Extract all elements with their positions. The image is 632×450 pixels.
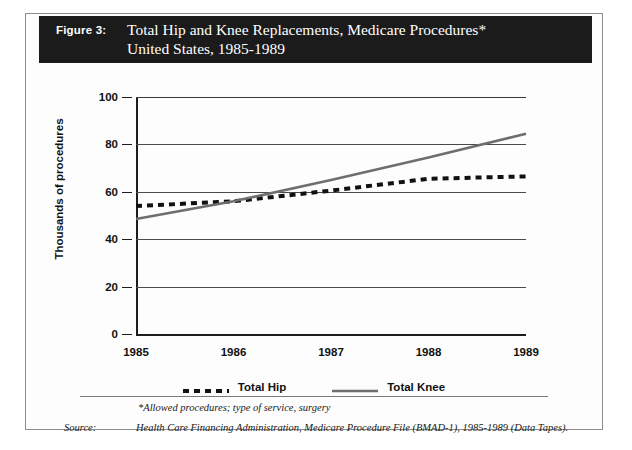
x-tick-label-1988: 1988 [416,346,442,358]
y-tick-60 [122,192,132,193]
x-tick-label-1986: 1986 [221,346,247,358]
source-label: Source: [64,422,136,433]
y-tick-label-60: 60 [105,186,118,198]
legend-item-total-knee[interactable]: Total Knee [332,381,445,393]
series-lines [136,97,526,334]
figure-title-line-2: United States, 1985-1989 [127,39,486,58]
figure-container: Figure 3: Total Hip and Knee Replacement… [25,13,603,430]
y-tick-label-80: 80 [105,138,118,150]
legend-label: Total Hip [238,381,286,393]
y-axis-title: Thousands of procedures [53,94,65,284]
legend-label: Total Knee [387,381,445,393]
y-tick-100 [122,97,132,98]
source-row: Source:Health Care Financing Administrat… [64,422,604,433]
legend-swatch-dashed [183,382,229,392]
y-tick-20 [122,287,132,288]
legend-swatch-solid [332,382,378,392]
x-tick-label-1989: 1989 [513,346,539,358]
chart-legend: Total HipTotal Knee [26,381,602,393]
plot-area: Thousands of procedures 020406080100 198… [26,63,602,429]
y-tick-0 [122,334,132,335]
figure-number-label: Figure 3: [56,24,106,36]
y-tick-label-100: 100 [99,91,118,103]
y-tick-label-0: 0 [112,328,118,340]
figure-title-bar: Figure 3: Total Hip and Knee Replacement… [39,16,592,63]
y-tick-label-20: 20 [105,281,118,293]
y-tick-40 [122,239,132,240]
footnote-text: *Allowed procedures; type of service, su… [138,402,330,413]
plot-canvas: 020406080100 19851986198719881989 [136,97,526,334]
x-tick-label-1985: 1985 [123,346,149,358]
figure-title-line-1: Total Hip and Knee Replacements, Medicar… [127,20,486,39]
gridline-0 [136,334,526,336]
footnote-divider [80,396,548,397]
source-text: Health Care Financing Administration, Me… [136,422,568,433]
y-tick-80 [122,144,132,145]
y-tick-label-40: 40 [105,233,118,245]
x-tick-label-1987: 1987 [318,346,344,358]
legend-item-total-hip[interactable]: Total Hip [183,381,286,393]
figure-title: Total Hip and Knee Replacements, Medicar… [127,20,486,58]
